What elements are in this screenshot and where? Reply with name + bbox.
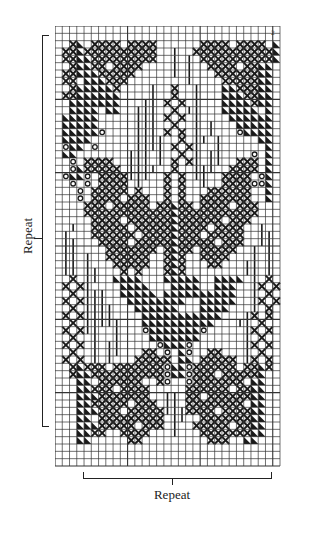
corner-mark: 2: [271, 29, 275, 36]
bottom-repeat-bracket-tick: [172, 478, 173, 485]
bottom-repeat-label: Repeat: [132, 487, 212, 503]
bottom-repeat-bracket: [83, 472, 272, 479]
left-repeat-label: Repeat: [20, 206, 36, 266]
left-repeat-bracket: [42, 35, 49, 427]
chart-grid: [55, 26, 281, 467]
